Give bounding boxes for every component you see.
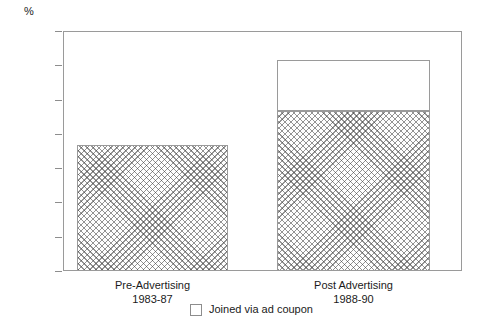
- chart-legend: Joined via ad coupon: [190, 303, 313, 316]
- y-axis-unit-label: %: [24, 6, 34, 17]
- bar-2: [277, 31, 430, 271]
- bar-chart: % 35302520151050 Pre-Advertising1983-87P…: [0, 0, 485, 326]
- x-axis-label-line1: Post Advertising: [314, 279, 393, 291]
- y-tick-mark: [55, 65, 62, 66]
- legend-swatch-joined-via-ad-coupon: [190, 304, 202, 316]
- y-tick-mark: [55, 271, 62, 272]
- x-axis-label-line1: Pre-Advertising: [115, 279, 190, 291]
- x-axis-label-1: Pre-Advertising1983-87: [37, 279, 268, 306]
- bar-2-segment-2: [277, 60, 430, 111]
- y-tick-mark: [55, 202, 62, 203]
- y-tick-mark: [55, 100, 62, 101]
- bar-2-segment-1: [277, 111, 430, 271]
- x-axis-label-2: Post Advertising1988-90: [237, 279, 470, 306]
- y-tick-mark: [55, 237, 62, 238]
- y-tick-mark: [55, 31, 62, 32]
- bar-1: [77, 31, 228, 271]
- y-tick-mark: [55, 168, 62, 169]
- y-tick-mark: [55, 134, 62, 135]
- legend-label-joined-via-ad-coupon: Joined via ad coupon: [209, 303, 313, 316]
- bar-1-segment-1: [77, 145, 228, 271]
